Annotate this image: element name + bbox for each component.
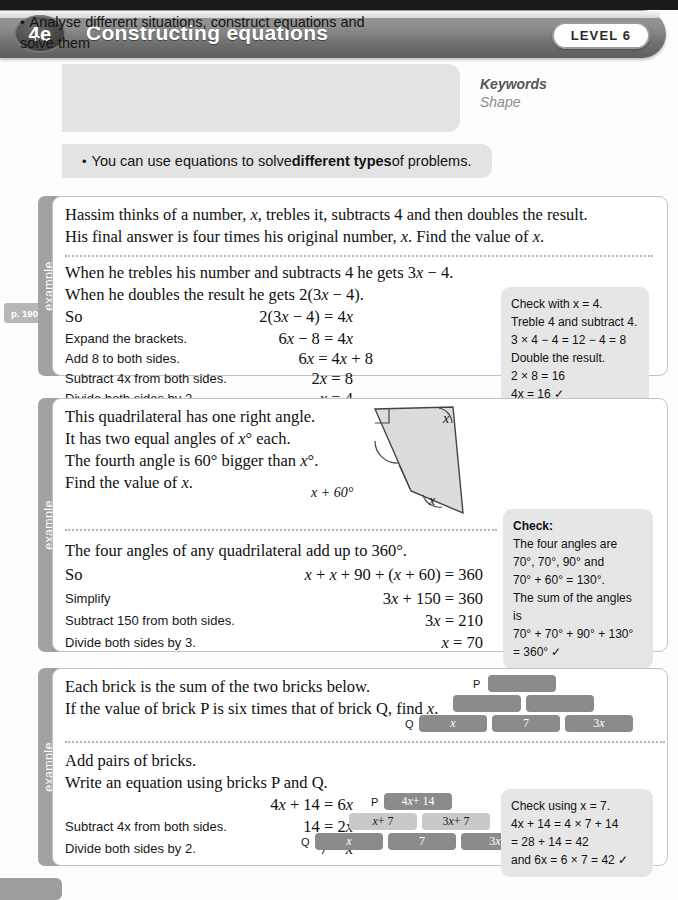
bullet-icon: •: [82, 154, 87, 169]
brick-cell: [526, 695, 594, 712]
brick-cell: 3x: [565, 715, 633, 732]
step-equation: 2(3x − 4) = 4x: [163, 307, 353, 327]
angle-label-top-right: x: [443, 411, 449, 427]
brick-cell: x: [315, 833, 383, 850]
step-label: So: [65, 307, 82, 327]
brick-cell: x: [419, 715, 487, 732]
statement-prefix: You can use equations to solve: [92, 153, 292, 169]
step-label: Add 8 to both sides.: [65, 351, 180, 366]
step-equation: 2x = 8: [163, 369, 353, 389]
keywords-title: Keywords: [480, 76, 547, 92]
problem-line: If the value of brick P is six times tha…: [65, 699, 438, 719]
check-box-1: Check with x = 4. Treble 4 and subtract …: [501, 287, 649, 411]
step-label: Simplify: [65, 591, 111, 606]
problem-line: Each brick is the sum of the two bricks …: [65, 677, 370, 697]
brick-cell: 7: [388, 833, 456, 850]
problem-line: This quadrilateral has one right angle.: [65, 407, 315, 427]
objective-text: •Analyse different situations, construct…: [20, 12, 380, 54]
quadrilateral-svg: [353, 401, 483, 523]
problem-line: It has two equal angles of x° each.: [65, 429, 291, 449]
brick-tag-q: Q: [405, 718, 414, 730]
brick-row-top: 4x + 14: [384, 793, 457, 810]
keywords-block: Keywords Shape: [480, 76, 547, 110]
check-title: Check:: [513, 517, 643, 535]
divider: [65, 741, 665, 743]
objective-label: Analyse different situations, construct …: [20, 14, 365, 51]
step-equation: 4x + 14 = 6x: [163, 795, 353, 815]
brick-cell: 4x + 14: [384, 793, 452, 810]
solution-line: Write an equation using bricks P and Q.: [65, 773, 328, 793]
brick-row-bottom: x 7 3x: [419, 715, 638, 732]
brick-cell: [488, 675, 556, 692]
step-equation: 6x = 4x + 8: [183, 349, 373, 369]
check-line: Double the result.: [511, 349, 639, 367]
bullet-icon: •: [20, 15, 25, 30]
check-line: The four angles are: [513, 535, 643, 553]
level-badge: LEVEL 6: [552, 22, 650, 49]
problem-line: The fourth angle is 60° bigger than x°.: [65, 451, 318, 471]
step-equation: 3x = 210: [193, 611, 483, 631]
check-line: Treble 4 and subtract 4.: [511, 313, 639, 331]
example-card-3: Each brick is the sum of the two bricks …: [52, 668, 668, 866]
check-box-3: Check using x = 7. 4x + 14 = 4 × 7 + 14 …: [501, 789, 653, 877]
solution-line: When he doubles the result he gets 2(3x …: [65, 285, 364, 305]
brick-cell: 3x + 7: [422, 813, 490, 830]
step-equation: x = 70: [193, 633, 483, 653]
divider: [65, 529, 497, 531]
check-line: 2 × 8 = 16: [511, 367, 639, 385]
brick-tag-q: Q: [301, 836, 310, 848]
check-line: 70°, 70°, 90° and: [513, 553, 643, 571]
check-line: 4x + 14 = 4 × 7 + 14: [511, 815, 643, 833]
statement-panel: •You can use equations to solve differen…: [62, 144, 492, 178]
check-line: The sum of the angles is: [513, 589, 643, 625]
objective-panel: [62, 64, 460, 132]
check-box-2: Check: The four angles are 70°, 70°, 90°…: [503, 509, 653, 669]
brick-tag-p: P: [473, 678, 480, 690]
statement-suffix: of problems.: [392, 153, 472, 169]
check-line: Check using x = 7.: [511, 797, 643, 815]
check-line: 70° + 60° = 130°.: [513, 571, 643, 589]
brick-row-top: [488, 675, 561, 692]
bottom-page-tab: [0, 878, 62, 900]
check-line: = 360° ✓: [513, 643, 643, 661]
step-label: Divide both sides by 3.: [65, 635, 196, 650]
problem-line: His final answer is four times his origi…: [65, 227, 544, 247]
check-line: 3 × 4 − 4 = 12 − 4 = 8: [511, 331, 639, 349]
step-equation: 6x − 8 = 4x: [163, 329, 353, 349]
brick-cell: x + 7: [349, 813, 417, 830]
angle-label-bottom-left: x + 60°: [311, 485, 353, 501]
angle-label-bottom-right: x: [429, 493, 435, 509]
textbook-page: 4e Constructing equations LEVEL 6 •Analy…: [0, 0, 678, 900]
brick-row-middle: [453, 695, 599, 712]
example-card-1: Hassim thinks of a number, x, trebles it…: [52, 196, 668, 376]
brick-tag-p: P: [371, 796, 378, 808]
statement-bold: different types: [292, 153, 392, 169]
check-line: 70° + 70° + 90° + 130°: [513, 625, 643, 643]
example-card-2: This quadrilateral has one right angle. …: [52, 398, 668, 652]
step-label: So: [65, 565, 82, 585]
step-equation: 3x + 150 = 360: [193, 589, 483, 609]
problem-line: Find the value of x.: [65, 473, 193, 493]
problem-line: Hassim thinks of a number, x, trebles it…: [65, 205, 588, 225]
brick-cell: [453, 695, 521, 712]
divider: [65, 255, 653, 257]
keyword-shape: Shape: [480, 94, 547, 110]
brick-row-middle: x + 7 3x + 7: [349, 813, 495, 830]
brick-cell: 7: [492, 715, 560, 732]
quadrilateral-diagram: x x x + 60°: [353, 401, 483, 521]
solution-line: Add pairs of bricks.: [65, 751, 196, 771]
page-top-strip: [0, 0, 678, 10]
solution-line: The four angles of any quadrilateral add…: [65, 541, 407, 561]
check-line: = 28 + 14 = 42: [511, 833, 643, 851]
solution-line: When he trebles his number and subtracts…: [65, 263, 453, 283]
step-equation: x + x + 90 + (x + 60) = 360: [193, 565, 483, 585]
check-line: Check with x = 4.: [511, 295, 639, 313]
check-line: and 6x = 6 × 7 = 42 ✓: [511, 851, 643, 869]
